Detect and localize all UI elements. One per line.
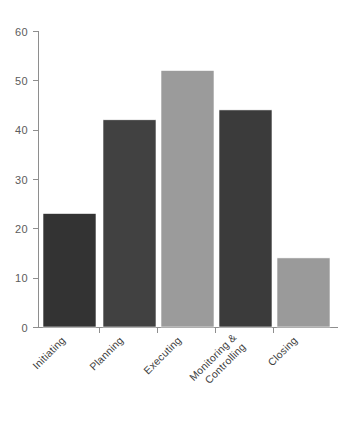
bar-monitoring-controlling[interactable] — [219, 110, 272, 327]
x-axis-label-closing: Closing — [265, 334, 299, 368]
y-axis-label-30: 30 — [15, 174, 28, 186]
bar-chart: 60 50 40 30 20 10 0 Initiating Planning … — [0, 0, 346, 434]
y-axis-label-50: 50 — [15, 75, 28, 87]
x-axis-label-monitoring-controlling: Monitoring & Controlling — [187, 331, 248, 392]
x-axis-label-planning: Planning — [87, 334, 126, 373]
bar-planning[interactable] — [103, 120, 156, 327]
bar-closing[interactable] — [277, 258, 330, 327]
bar-initiating[interactable] — [43, 214, 96, 328]
chart-canvas: 60 50 40 30 20 10 0 Initiating Planning … — [0, 0, 346, 434]
x-axis-label-executing: Executing — [141, 334, 183, 376]
y-axis-label-60: 60 — [15, 26, 28, 38]
y-axis-label-40: 40 — [15, 124, 28, 136]
x-axis-label-initiating: Initiating — [30, 334, 68, 372]
bar-executing[interactable] — [161, 71, 214, 328]
y-axis-label-20: 20 — [15, 223, 28, 235]
y-axis-label-0: 0 — [21, 322, 28, 334]
y-axis-label-10: 10 — [15, 272, 28, 284]
